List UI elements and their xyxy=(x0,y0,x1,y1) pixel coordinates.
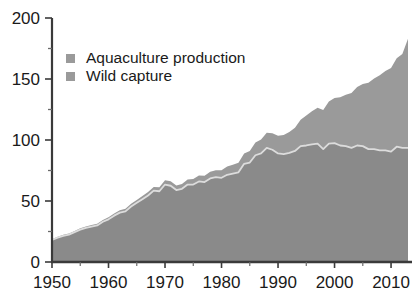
legend-label-aquaculture: Aquaculture production xyxy=(86,49,245,66)
x-axis-label: 1980 xyxy=(203,273,241,292)
legend-swatch-wild-capture xyxy=(66,72,75,81)
x-axis-label: 1950 xyxy=(33,273,71,292)
y-axis-label: 50 xyxy=(21,192,40,211)
x-axis-tick-labels: 1950196019701980199020002010 xyxy=(33,273,410,292)
x-axis-label: 1990 xyxy=(259,273,297,292)
y-axis-label: 100 xyxy=(12,131,40,150)
x-axis-label: 2000 xyxy=(316,273,354,292)
y-axis-label: 0 xyxy=(31,253,40,272)
legend-swatch-aquaculture xyxy=(66,54,75,63)
y-axis-label: 200 xyxy=(12,9,40,28)
chart-container: 200150100500 195019601970198019902000201… xyxy=(0,0,420,293)
stacked-area-chart: 200150100500 195019601970198019902000201… xyxy=(0,0,420,293)
x-axis-label: 1970 xyxy=(146,273,184,292)
legend-label-wild-capture: Wild capture xyxy=(86,67,172,84)
x-axis-label: 2010 xyxy=(372,273,410,292)
y-axis-label: 150 xyxy=(12,70,40,89)
x-axis-label: 1960 xyxy=(90,273,128,292)
